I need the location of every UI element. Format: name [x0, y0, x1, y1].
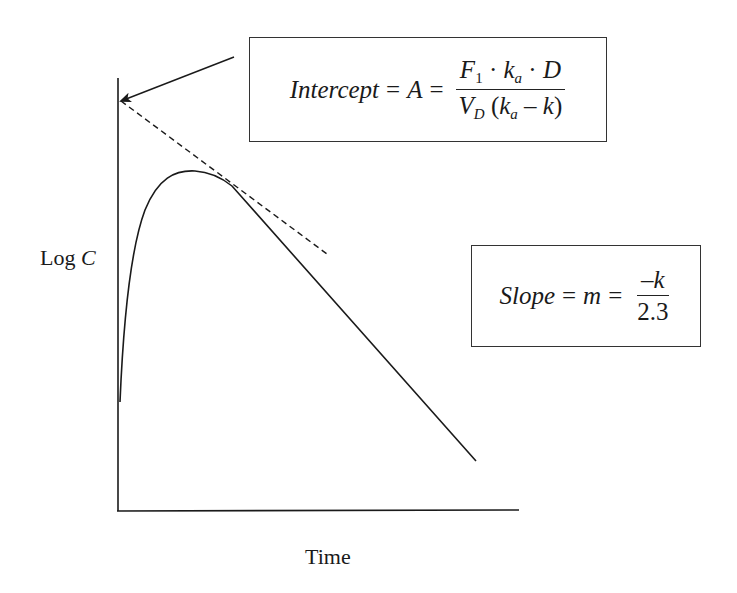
intercept-fraction: F1 · ka · D VD (ka – k) — [455, 57, 567, 123]
concentration-curve — [120, 171, 476, 461]
intercept-equation: Intercept = A = F1 · ka · D VD (ka – k) — [290, 57, 567, 123]
slope-equation: Slope = m = –k 2.3 — [499, 267, 672, 326]
x-axis — [117, 510, 519, 511]
x-axis-label: Time — [305, 544, 351, 570]
slope-fraction: –k 2.3 — [633, 267, 672, 326]
y-axis-label: Log C — [40, 245, 96, 271]
slope-formula-box: Slope = m = –k 2.3 — [471, 245, 701, 347]
intercept-arrow — [121, 57, 234, 101]
intercept-formula-box: Intercept = A = F1 · ka · D VD (ka – k) — [249, 37, 607, 142]
